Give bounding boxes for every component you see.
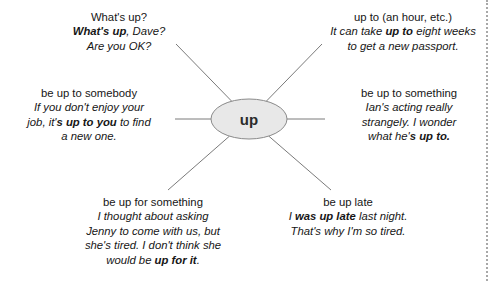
branch-headword: What's up? — [34, 10, 204, 24]
branch-example: If you don't enjoy yourjob, it's up to y… — [6, 100, 172, 143]
branch-whats-up: What's up? What's up, Dave?Are you OK? — [34, 10, 204, 53]
mind-map-page: up What's up? What's up, Dave?Are you OK… — [0, 0, 498, 281]
branch-be-up-late: be up late I was up late last night.That… — [258, 195, 438, 238]
branch-example: What's up, Dave?Are you OK? — [34, 24, 204, 53]
branch-be-up-for-something: be up for something I thought about aski… — [58, 195, 248, 267]
branch-example: Ian's acting reallystrangely. I wonderwh… — [330, 100, 488, 143]
branch-be-up-to-somebody: be up to somebody If you don't enjoy you… — [6, 86, 172, 144]
branch-headword: be up late — [258, 195, 438, 209]
branch-be-up-to-something: be up to something Ian's acting reallyst… — [330, 86, 488, 144]
branch-headword: be up to something — [330, 86, 488, 100]
branch-headword: be up for something — [58, 195, 248, 209]
branch-headword: be up to somebody — [6, 86, 172, 100]
branch-up-to-an-hour: up to (an hour, etc.) It can take up to … — [318, 10, 488, 53]
branch-headword: up to (an hour, etc.) — [318, 10, 488, 24]
branch-example: It can take up to eight weeksto get a ne… — [318, 24, 488, 53]
branch-example: I thought about askingJenny to come with… — [58, 209, 248, 267]
branch-example: I was up late last night.That's why I'm … — [258, 209, 438, 238]
center-node-label: up — [211, 99, 287, 139]
